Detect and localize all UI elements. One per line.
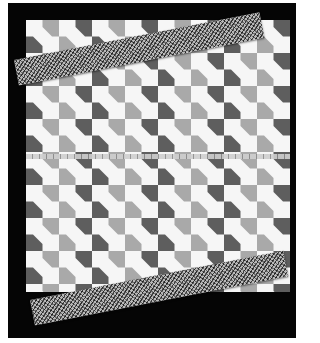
measuring-tape: [26, 154, 290, 159]
